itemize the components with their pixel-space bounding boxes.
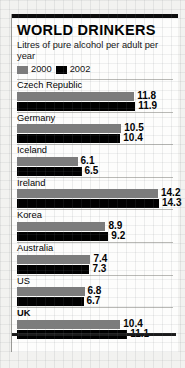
- bar-row: 14.2: [17, 189, 173, 198]
- bar-value-label: 7.3: [92, 264, 106, 274]
- bar-2000: [17, 320, 120, 329]
- bar-row: 6.5: [17, 167, 173, 176]
- bar-group: Iceland6.16.5: [17, 144, 173, 176]
- bar-2002: [17, 297, 84, 306]
- chart-title: WORLD DRINKERS: [17, 23, 173, 38]
- bar-group: Korea8.99.2: [17, 209, 173, 241]
- bar-2002: [17, 232, 108, 241]
- bar-group: Czech Republic11.811.9: [17, 79, 173, 111]
- scanned-page: WORLD DRINKERS Litres of pure alcohol pe…: [0, 0, 185, 368]
- bar-2000: [17, 92, 134, 101]
- legend-label-2000: 2000: [31, 65, 52, 74]
- bar-2002: [17, 265, 89, 274]
- bar-row: 11.9: [17, 102, 173, 111]
- legend-item-2000: 2000: [17, 65, 52, 74]
- bar-row: 10.4: [17, 320, 173, 329]
- category-label: Ireland: [17, 178, 173, 190]
- bar-groups: Czech Republic11.811.9Germany10.510.4Ice…: [17, 79, 173, 339]
- legend-swatch-2002: [56, 66, 67, 74]
- bar-2002: [17, 167, 82, 176]
- bar-2000: [17, 189, 158, 198]
- bar-2000: [17, 157, 78, 166]
- bar-row: 10.4: [17, 134, 173, 143]
- category-label: Iceland: [17, 145, 173, 157]
- bar-group: US6.86.7: [17, 275, 173, 307]
- bar-group: Australia7.47.3: [17, 242, 173, 274]
- bar-2000: [17, 124, 121, 133]
- bar-value-label: 14.3: [162, 198, 181, 208]
- bar-row: 9.2: [17, 232, 173, 241]
- bar-2002: [17, 134, 120, 143]
- category-label: Korea: [17, 210, 173, 222]
- bar-row: 10.5: [17, 124, 173, 133]
- bar-2000: [17, 255, 90, 264]
- bar-value-label: 6.7: [87, 296, 101, 306]
- chart-legend: 2000 2002: [17, 64, 173, 75]
- category-label: UK: [17, 308, 173, 320]
- bar-2002: [17, 199, 159, 208]
- bottom-rule: [12, 333, 176, 336]
- bar-2000: [17, 287, 85, 296]
- bar-row: 7.3: [17, 265, 173, 274]
- bar-group: Ireland14.214.3: [17, 177, 173, 209]
- bar-value-label: 10.4: [123, 133, 142, 143]
- bar-value-label: 6.5: [85, 166, 99, 176]
- bar-2002: [17, 102, 135, 111]
- category-label: Germany: [17, 113, 173, 125]
- legend-item-2002: 2002: [56, 65, 91, 74]
- bar-row: 8.9: [17, 222, 173, 231]
- bar-group: Germany10.510.4: [17, 112, 173, 144]
- legend-label-2002: 2002: [70, 65, 91, 74]
- bar-row: 6.7: [17, 297, 173, 306]
- bar-value-label: 11.9: [138, 101, 157, 111]
- bar-row: 14.3: [17, 199, 173, 208]
- bar-value-label: 9.2: [111, 231, 125, 241]
- chart-panel: WORLD DRINKERS Litres of pure alcohol pe…: [11, 14, 178, 352]
- bar-2000: [17, 222, 105, 231]
- legend-swatch-2000: [17, 66, 28, 74]
- chart-subtitle: Litres of pure alcohol per adult per yea…: [17, 40, 167, 61]
